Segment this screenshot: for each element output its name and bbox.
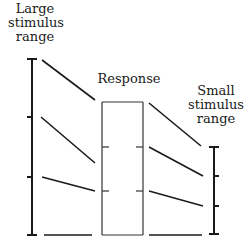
large-stimulus-axis	[27, 59, 37, 235]
response-box	[102, 102, 143, 235]
mapping-line	[149, 147, 203, 176]
mapping-line	[149, 103, 201, 146]
mapping-line	[149, 191, 203, 206]
stimulus-response-diagram	[0, 0, 248, 246]
small-stimulus-axis	[209, 147, 219, 234]
mapping-line	[41, 117, 95, 163]
mapping-line	[42, 177, 95, 191]
mapping-line	[42, 60, 95, 100]
right-mapping-lines	[149, 103, 203, 235]
left-mapping-lines	[41, 60, 95, 235]
